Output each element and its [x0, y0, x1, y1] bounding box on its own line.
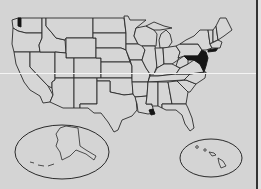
frame-margin-right	[258, 0, 261, 189]
state-new-mexico	[74, 78, 97, 108]
us-states-map	[0, 0, 261, 189]
hawaii-inset-frame	[180, 139, 242, 177]
state-arkansas	[132, 82, 148, 97]
state-michigan	[159, 30, 172, 48]
state-colorado	[74, 58, 101, 78]
state-mississippi	[146, 82, 158, 106]
highlight-puget-sound	[18, 18, 21, 27]
alaska-aleutians	[30, 162, 54, 166]
scan-artifact-line	[0, 73, 261, 74]
state-wyoming	[66, 38, 96, 58]
hawaii-inset	[180, 139, 242, 177]
state-south-dakota	[93, 33, 126, 50]
state-nebraska	[96, 48, 130, 62]
contiguous-us	[12, 16, 232, 132]
state-maine	[216, 18, 232, 40]
state-kansas	[101, 62, 132, 78]
state-arizona	[50, 78, 74, 108]
state-alaska	[56, 126, 96, 160]
hawaii-island-oahu	[204, 149, 206, 151]
alaska-inset	[15, 125, 109, 179]
state-florida	[162, 104, 194, 131]
hawaii-island-maui	[209, 152, 216, 156]
state-north-dakota	[93, 18, 126, 33]
hawaii-island-kauai	[196, 146, 199, 149]
hawaii-island-big	[218, 158, 226, 168]
